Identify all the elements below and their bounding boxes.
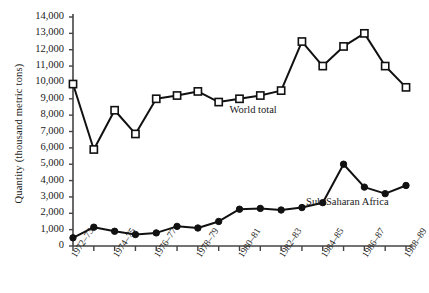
data-point-marker[interactable] xyxy=(153,95,160,102)
y-axis-tick-label: 12,000 xyxy=(12,43,64,54)
series-label-1: Sub-Saharan Africa xyxy=(306,196,389,207)
y-axis-tick-label: 3,000 xyxy=(12,190,64,201)
data-point-marker[interactable] xyxy=(111,228,117,234)
y-axis-tick-label: 2,000 xyxy=(12,206,64,217)
data-point-marker[interactable] xyxy=(298,38,305,45)
y-axis-tick-label: 11,000 xyxy=(12,59,64,70)
data-point-marker[interactable] xyxy=(194,88,201,95)
series-label-0: World total xyxy=(230,104,277,115)
data-point-marker[interactable] xyxy=(299,204,305,210)
y-axis-tick-label: 7,000 xyxy=(12,125,64,136)
y-axis-tick-label: 4,000 xyxy=(12,174,64,185)
data-point-marker[interactable] xyxy=(278,87,285,94)
data-point-marker[interactable] xyxy=(236,95,243,102)
data-point-marker[interactable] xyxy=(173,92,180,99)
y-axis-tick-label: 14,000 xyxy=(12,10,64,21)
y-axis-tick-label: 1,000 xyxy=(12,223,64,234)
y-axis-tick-label: 5,000 xyxy=(12,157,64,168)
data-point-marker[interactable] xyxy=(215,98,222,105)
data-point-marker[interactable] xyxy=(69,80,76,87)
data-point-marker[interactable] xyxy=(402,84,409,91)
series-line-0 xyxy=(73,33,406,149)
data-point-marker[interactable] xyxy=(70,235,76,241)
data-point-marker[interactable] xyxy=(361,184,367,190)
data-point-marker[interactable] xyxy=(340,43,347,50)
y-axis-tick-label: 0 xyxy=(12,239,64,250)
data-point-marker[interactable] xyxy=(340,161,346,167)
y-axis-tick-label: 10,000 xyxy=(12,75,64,86)
data-point-marker[interactable] xyxy=(382,62,389,69)
data-point-marker[interactable] xyxy=(257,92,264,99)
data-point-marker[interactable] xyxy=(132,130,139,137)
data-point-marker[interactable] xyxy=(278,207,284,213)
data-point-marker[interactable] xyxy=(403,182,409,188)
data-point-marker[interactable] xyxy=(195,225,201,231)
data-point-marker[interactable] xyxy=(236,206,242,212)
data-point-marker[interactable] xyxy=(319,62,326,69)
data-point-marker[interactable] xyxy=(361,30,368,37)
data-point-marker[interactable] xyxy=(153,230,159,236)
data-point-marker[interactable] xyxy=(215,218,221,224)
data-point-marker[interactable] xyxy=(257,205,263,211)
y-axis-tick-label: 13,000 xyxy=(12,26,64,37)
data-point-marker[interactable] xyxy=(90,146,97,153)
y-axis-tick-label: 6,000 xyxy=(12,141,64,152)
y-axis-tick-label: 8,000 xyxy=(12,108,64,119)
data-point-marker[interactable] xyxy=(111,107,118,114)
y-axis-tick-label: 9,000 xyxy=(12,92,64,103)
